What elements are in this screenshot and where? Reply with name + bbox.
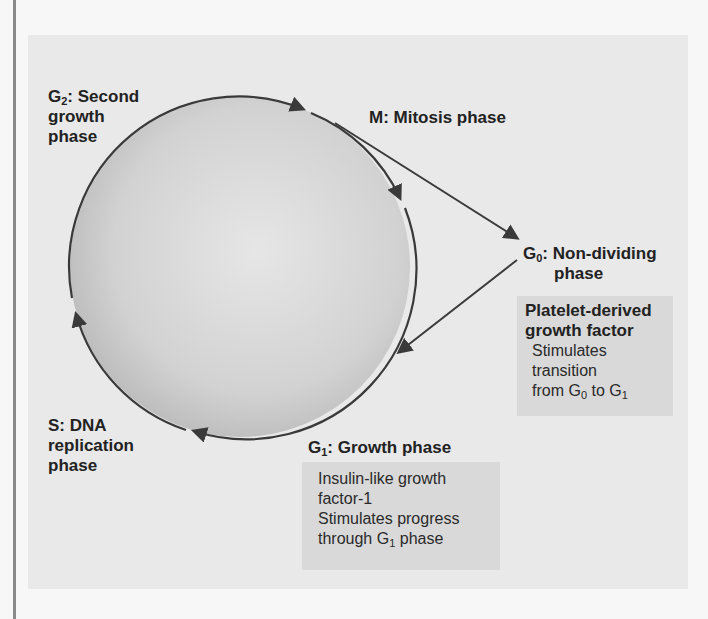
note-pdgf-title: Platelet-derived growth factor <box>525 301 673 341</box>
label-s-phase: S: DNA replication phase <box>48 416 134 476</box>
note-platelet-derived-growth-factor: Platelet-derived growth factor Stimulate… <box>517 296 673 416</box>
label-g1-phase: G1: Growth phase <box>308 438 451 458</box>
label-g2-phase: G2: Second growth phase <box>48 87 139 147</box>
label-g0-phase: G0: Non-dividing phase <box>523 244 657 284</box>
note-pdgf-body: Stimulates transition from G0 to G1 <box>525 341 673 401</box>
label-m-phase: M: Mitosis phase <box>369 108 506 128</box>
note-insulin-like-growth-factor: Insulin-like growth factor-1 Stimulates … <box>302 462 500 570</box>
cell-circle <box>70 97 410 437</box>
